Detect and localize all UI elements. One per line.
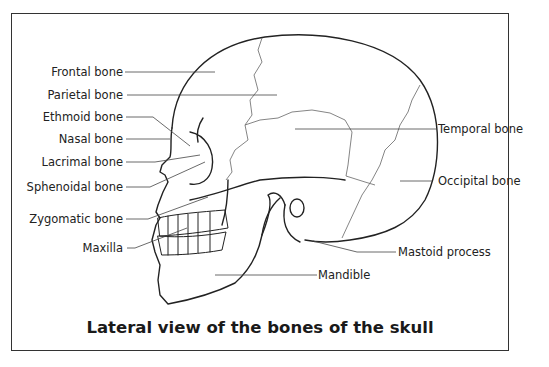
zygomatic-arch <box>190 177 345 200</box>
label-temporal-bone: Temporal bone <box>438 122 523 136</box>
label-mastoid-process: Mastoid process <box>398 245 491 259</box>
label-frontal-bone: Frontal bone <box>51 65 123 79</box>
label-maxilla: Maxilla <box>83 241 123 255</box>
label-sphenoidal-bone: Sphenoidal bone <box>27 180 123 194</box>
diagram-caption: Lateral view of the bones of the skull <box>11 318 509 337</box>
squamosal-suture <box>245 110 352 176</box>
teeth <box>158 210 228 255</box>
ear-canal <box>290 199 304 217</box>
eye-orbit <box>190 132 213 184</box>
label-zygomatic-bone: Zygomatic bone <box>29 212 123 226</box>
label-lacrimal-bone: Lacrimal bone <box>42 155 124 169</box>
label-occipital-bone: Occipital bone <box>438 174 521 188</box>
label-mandible: Mandible <box>318 268 370 282</box>
label-ethmoid-bone: Ethmoid bone <box>43 110 123 124</box>
label-nasal-bone: Nasal bone <box>59 132 123 146</box>
mandible-ramus <box>262 193 285 235</box>
lambdoid-suture <box>342 85 420 238</box>
label-parietal-bone: Parietal bone <box>47 88 123 102</box>
coronal-suture <box>226 38 262 180</box>
